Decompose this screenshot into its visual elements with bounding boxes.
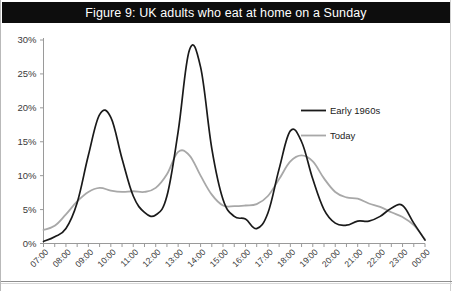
y-axis-tick-label: 0% xyxy=(23,238,37,249)
x-axis-tick-label: 10:00 xyxy=(95,247,117,269)
x-axis-tick-label: 22:00 xyxy=(365,247,387,269)
chart-legend: Early 1960s Today xyxy=(301,105,380,141)
series-line-early-1960s xyxy=(44,45,426,242)
x-axis-tick-label: 17:00 xyxy=(253,247,275,269)
y-axis-tick-label: 5% xyxy=(23,204,37,215)
x-axis-tick-label: 08:00 xyxy=(51,247,73,269)
x-axis-tick-label: 21:00 xyxy=(342,247,364,269)
x-axis-tick-label: 07:00 xyxy=(28,247,50,269)
series-line-today xyxy=(44,150,426,239)
y-axis-tick-label: 30% xyxy=(17,34,37,45)
legend-label-today: Today xyxy=(330,130,356,141)
x-axis-tick-label: 18:00 xyxy=(275,247,297,269)
y-axis-tick-label: 20% xyxy=(17,102,37,113)
x-axis-tick-label: 20:00 xyxy=(320,247,342,269)
page-title: Figure 9: UK adults who eat at home on a… xyxy=(85,6,366,20)
footer-divider xyxy=(1,281,452,282)
x-axis-tick-group: 07:0008:0009:0010:0011:0012:0013:0014:00… xyxy=(28,244,432,270)
y-axis-tick-label: 10% xyxy=(17,170,37,181)
x-axis-tick-label: 23:00 xyxy=(387,247,409,269)
legend-label-early-1960s: Early 1960s xyxy=(330,105,380,116)
y-axis-tick-group: 0%5%10%15%20%25%30% xyxy=(17,34,43,249)
x-axis-tick-label: 09:00 xyxy=(73,247,95,269)
x-axis-tick-label: 11:00 xyxy=(118,247,140,269)
y-axis-tick-label: 25% xyxy=(17,68,37,79)
footer-divider-secondary xyxy=(1,283,452,284)
x-axis-tick-label: 14:00 xyxy=(185,247,207,269)
x-axis-tick-label: 15:00 xyxy=(208,247,230,269)
x-axis-tick-label: 12:00 xyxy=(140,247,162,269)
chart-plot-area: 0%5%10%15%20%25%30% 07:0008:0009:0010:00… xyxy=(1,23,452,278)
y-axis-tick-label: 15% xyxy=(17,136,37,147)
x-axis-tick-label: 19:00 xyxy=(297,247,319,269)
x-axis-tick-label: 13:00 xyxy=(163,247,185,269)
x-axis-tick-label: 00:00 xyxy=(410,247,432,269)
figure-title-band: Figure 9: UK adults who eat at home on a… xyxy=(2,2,450,23)
line-chart: 0%5%10%15%20%25%30% 07:0008:0009:0010:00… xyxy=(1,23,452,278)
x-axis-tick-label: 16:00 xyxy=(230,247,252,269)
